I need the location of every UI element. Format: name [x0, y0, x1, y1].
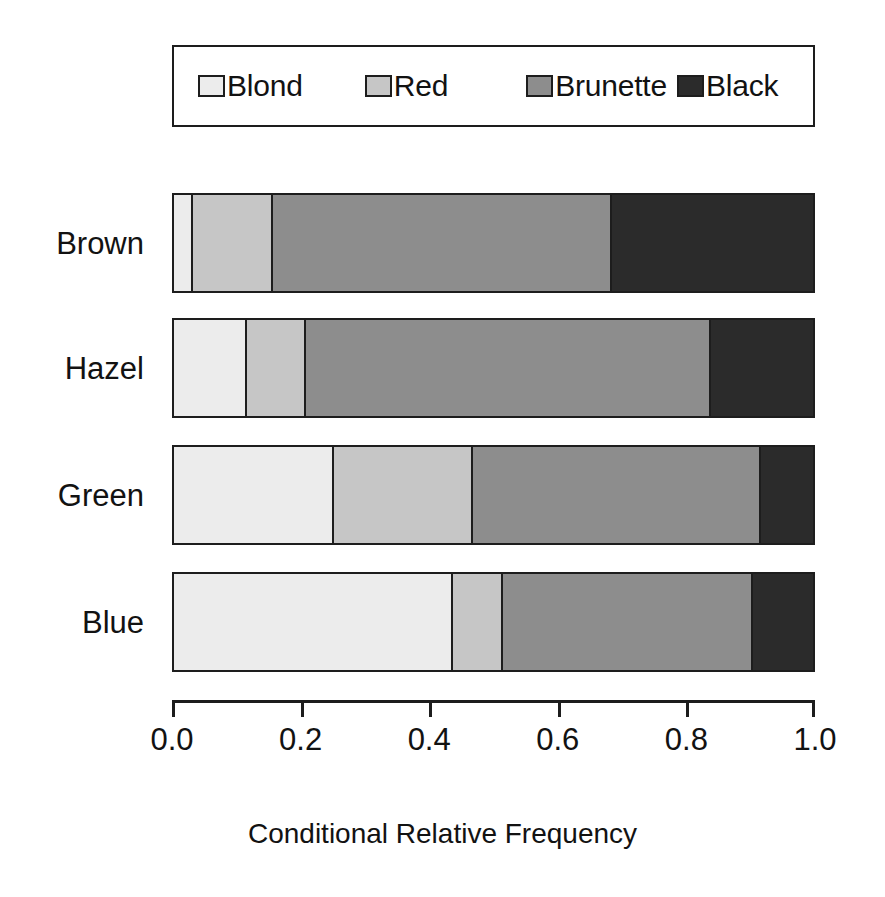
legend-items: Blond Red Brunette Black [174, 71, 813, 101]
bar-track [172, 445, 815, 545]
bar-row: Blue [172, 572, 815, 672]
legend-label-brunette: Brunette [555, 71, 667, 101]
axis-tick [558, 700, 561, 717]
bar-segment-black [711, 320, 813, 416]
bar-track [172, 318, 815, 418]
bar-segment-black [753, 574, 813, 670]
bar-row: Hazel [172, 318, 815, 418]
axis-tick-label: 1.0 [793, 724, 836, 755]
bar-segment-brunette [473, 447, 761, 543]
x-axis: 0.00.20.40.60.81.0 [172, 700, 815, 701]
category-label-hazel: Hazel [65, 353, 144, 384]
stacked-bar-chart: Blond Red Brunette Black BrownHazelGreen… [0, 0, 885, 897]
bar-segment-blond [174, 320, 247, 416]
bar-row: Brown [172, 193, 815, 293]
bar-segment-red [193, 195, 273, 291]
legend-entry-blond: Blond [198, 71, 303, 101]
chart-legend: Blond Red Brunette Black [172, 45, 815, 127]
axis-tick-label: 0.2 [279, 724, 322, 755]
category-label-blue: Blue [82, 607, 144, 638]
legend-label-black: Black [706, 71, 778, 101]
bar-segment-brunette [503, 574, 753, 670]
x-axis-title: Conditional Relative Frequency [0, 820, 885, 848]
bar-segment-brunette [306, 320, 711, 416]
legend-swatch-brunette-icon [526, 75, 553, 97]
legend-entry-black: Black [677, 71, 778, 101]
axis-tick [172, 700, 175, 717]
bar-track [172, 193, 815, 293]
legend-entry-red: Red [365, 71, 448, 101]
axis-tick-label: 0.4 [408, 724, 451, 755]
axis-tick [301, 700, 304, 717]
category-label-green: Green [58, 480, 144, 511]
legend-swatch-blond-icon [198, 75, 225, 97]
bar-segment-red [247, 320, 306, 416]
legend-entry-brunette: Brunette [526, 71, 667, 101]
bar-segment-blond [174, 447, 334, 543]
legend-swatch-black-icon [677, 75, 704, 97]
axis-tick-label: 0.8 [665, 724, 708, 755]
bar-segment-brunette [273, 195, 612, 291]
bar-segment-blond [174, 195, 193, 291]
legend-label-blond: Blond [227, 71, 303, 101]
axis-line [172, 700, 815, 703]
bar-segment-blond [174, 574, 453, 670]
axis-tick [812, 700, 815, 717]
legend-label-red: Red [394, 71, 448, 101]
category-label-brown: Brown [56, 228, 144, 259]
bar-track [172, 572, 815, 672]
axis-tick [429, 700, 432, 717]
bar-segment-red [453, 574, 503, 670]
axis-tick [686, 700, 689, 717]
bar-segment-red [334, 447, 473, 543]
bar-segment-black [761, 447, 813, 543]
legend-swatch-red-icon [365, 75, 392, 97]
axis-tick-label: 0.0 [150, 724, 193, 755]
bar-row: Green [172, 445, 815, 545]
bar-segment-black [612, 195, 813, 291]
axis-tick-label: 0.6 [536, 724, 579, 755]
plot-area: BrownHazelGreenBlue [172, 190, 815, 687]
